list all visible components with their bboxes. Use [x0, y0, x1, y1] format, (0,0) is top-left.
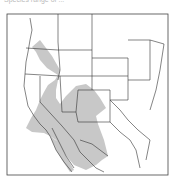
range-map: [0, 0, 174, 179]
